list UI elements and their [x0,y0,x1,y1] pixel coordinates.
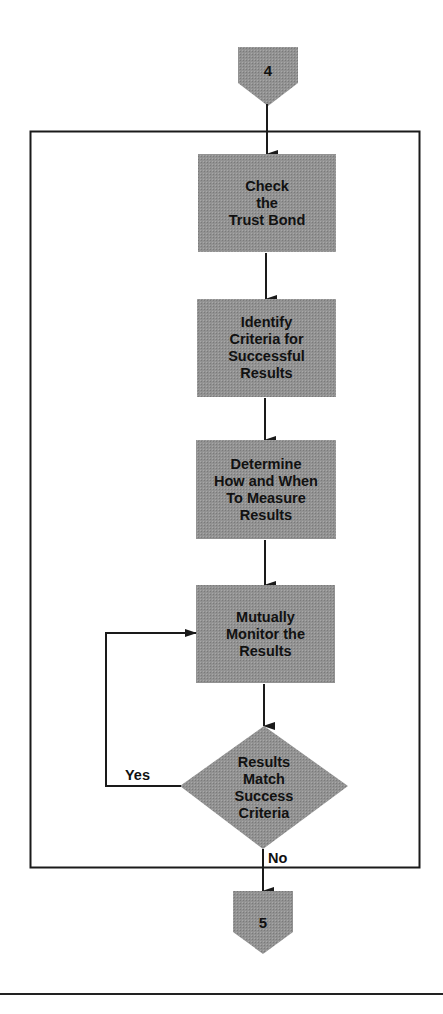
bottom-rule [0,993,443,995]
exit-connector-label: 5 [233,912,293,932]
no-branch-label: No [268,850,287,866]
entry-connector-label: 4 [238,58,298,82]
decision-label: Results Match Success Criteria [204,752,324,824]
step-3-label: Determine How and When To Measure Result… [196,440,336,539]
step-1-label: Check the Trust Bond [198,154,336,252]
step-4-label: Mutually Monitor the Results [196,585,335,683]
yes-branch-label: Yes [125,767,150,783]
yes-loop-line [106,633,196,786]
step-2-label: Identify Criteria for Successful Results [197,299,336,397]
